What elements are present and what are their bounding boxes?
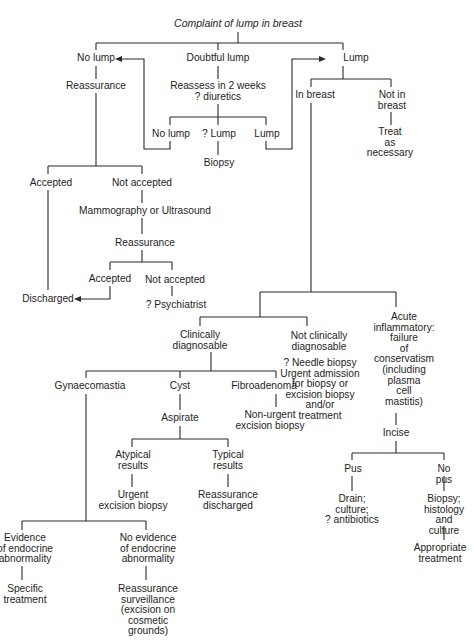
node-no-lump: No lump [77,53,115,64]
node-clinically-diagnosable: Clinically diagnosable [173,330,228,351]
node-accepted-1: Accepted [30,178,72,189]
node-reassurance: Reassurance [66,81,126,92]
node-not-accepted-2: Not accepted [145,275,205,286]
node-acute-inflammatory: Acute inflammatory: failure of conservat… [373,312,434,407]
node-non-urgent-excision: Non-urgent excision biopsy [235,410,304,431]
node-not-accepted-1: Not accepted [112,178,172,189]
node-treat-as-necessary: Treat as necessary [367,127,413,159]
node-lump: Lump [343,53,368,64]
node-not-in-breast: Not in breast [378,90,406,111]
node-reassurance-discharged: Reassurance discharged [198,490,258,511]
node-specific-treatment: Specific treatment [3,584,46,605]
node-atypical-results: Atypical results [115,450,151,471]
node-no-evidence-endocrine: No evidence of endocrine abnormality [120,533,177,565]
node-reassurance-surveillance: Reassurance surveillance (excision on co… [118,584,178,637]
node-incise: Incise [383,428,410,439]
node-biopsy-histology: Biopsy; histology and culture [424,494,464,536]
node-gynaecomastia: Gynaecomastia [55,381,126,392]
node-reassess-lump: Lump [254,129,279,140]
node-cyst: Cyst [170,381,190,392]
node-accepted-2: Accepted [89,274,131,285]
node-aspirate: Aspirate [161,413,198,424]
node-mammography: Mammography or Ultrasound [79,206,211,217]
node-evidence-endocrine: Evidence of endocrine abnormality [0,533,53,565]
node-drain: Drain; culture; ? antibiotics [325,494,379,526]
node-appropriate-treatment: Appropriate treatment [414,543,467,564]
node-no-pus: No pus [429,464,459,485]
node-pus: Pus [344,464,362,475]
node-doubtful-lump: Doubtful lump [187,53,250,64]
node-discharged: Discharged [22,294,74,305]
breast-lump-flowchart: Complaint of lump in breast No lump Doub… [0,0,474,642]
title-complaint: Complaint of lump in breast [174,18,302,29]
node-reassess-q-lump: ? Lump [202,129,236,140]
node-fibroadenoma: Fibroadenoma [231,381,297,392]
node-typical-results: Typical results [212,450,244,471]
node-reassurance-2: Reassurance [115,238,175,249]
node-reassess-no-lump: No lump [152,129,190,140]
node-biopsy: Biopsy [204,158,235,169]
node-in-breast: In breast [295,90,335,101]
node-reassess: Reassess in 2 weeks ? diuretics [170,81,266,102]
node-urgent-excision: Urgent excision biopsy [98,490,167,511]
node-psychiatrist: ? Psychiatrist [146,300,207,311]
node-not-clinically-diagnosable: Not clinically diagnosable [291,331,348,352]
